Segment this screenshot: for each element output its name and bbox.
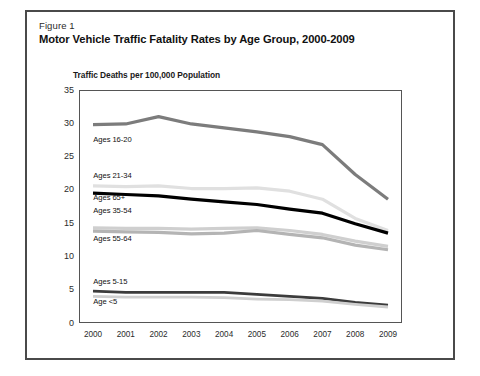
y-axis-tick-label: 15 — [48, 219, 74, 228]
series-label: Ages 16-20 — [93, 135, 131, 144]
y-axis-tick-label: 20 — [48, 185, 74, 194]
series-line — [93, 186, 388, 231]
y-axis-tick-label: 35 — [48, 86, 74, 95]
x-axis-tick-label: 2009 — [368, 330, 408, 339]
figure-card: Figure 1 Motor Vehicle Traffic Fatality … — [25, 10, 455, 360]
y-axis-tick-label: 5 — [48, 285, 74, 294]
series-label: Ages 55-64 — [93, 234, 131, 243]
line-chart: 05101520253035 2000200120022003200420052… — [27, 12, 457, 362]
series-label: Ages 21-34 — [93, 171, 131, 180]
series-label: Age <5 — [93, 297, 117, 306]
y-axis-tick-label: 25 — [48, 152, 74, 161]
series-label: Ages 65+ — [93, 193, 125, 202]
series-label: Ages 5-15 — [93, 277, 127, 286]
y-axis-tick-label: 10 — [48, 252, 74, 261]
series-label: Ages 35-54 — [93, 206, 131, 215]
y-axis-tick-label: 30 — [48, 119, 74, 128]
y-axis-tick-label: 0 — [48, 319, 74, 328]
